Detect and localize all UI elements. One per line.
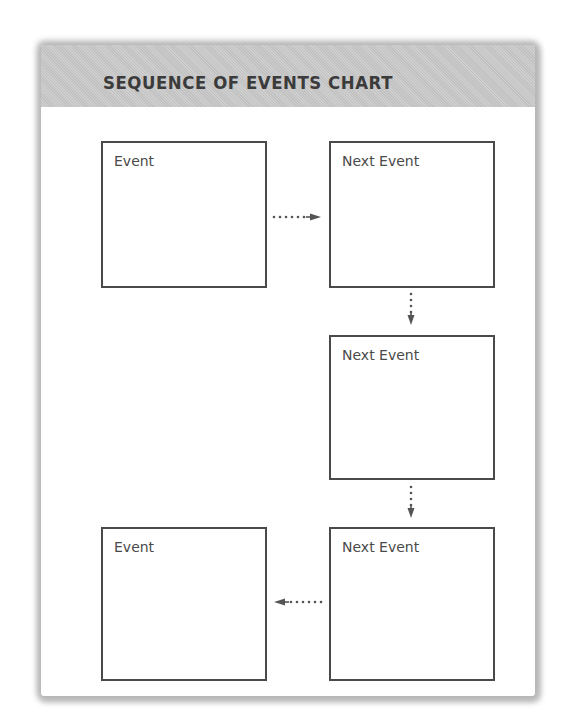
chart-title: SEQUENCE OF EVENTS CHART bbox=[103, 73, 393, 93]
panel-header: SEQUENCE OF EVENTS CHART bbox=[41, 45, 535, 107]
event-box-label: Next Event bbox=[342, 347, 419, 363]
event-box-label: Event bbox=[114, 153, 154, 169]
arrow-down-icon bbox=[405, 291, 417, 327]
arrow-left-icon bbox=[272, 596, 324, 608]
event-box-label: Next Event bbox=[342, 153, 419, 169]
event-box-label: Next Event bbox=[342, 539, 419, 555]
arrow-down-icon bbox=[405, 484, 417, 520]
event-box-label: Event bbox=[114, 539, 154, 555]
event-box-2: Next Event bbox=[329, 141, 495, 288]
event-box-5: Event bbox=[101, 527, 267, 681]
arrow-right-icon bbox=[271, 211, 323, 223]
event-box-3: Next Event bbox=[329, 335, 495, 480]
event-box-4: Next Event bbox=[329, 527, 495, 681]
event-box-1: Event bbox=[101, 141, 267, 288]
